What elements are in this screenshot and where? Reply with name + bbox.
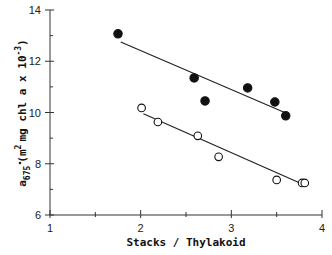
- data-point-filled: [114, 30, 122, 38]
- data-point-open: [154, 118, 162, 126]
- data-point-filled: [271, 98, 279, 106]
- data-point-open: [273, 176, 281, 184]
- data-points: [114, 30, 309, 187]
- x-tick-label: 3: [228, 222, 234, 234]
- data-point-filled: [282, 112, 290, 120]
- data-point-filled: [201, 97, 209, 105]
- data-point-filled: [243, 84, 251, 92]
- fit-line-open: [143, 114, 303, 185]
- data-point-filled: [190, 74, 198, 82]
- data-point-open: [301, 179, 309, 187]
- y-tick-label: 10: [29, 107, 41, 119]
- y-tick-label: 6: [35, 209, 41, 221]
- asterisk-mark: [19, 162, 22, 165]
- axes: 68101214 1234: [29, 4, 325, 234]
- data-point-open: [138, 104, 146, 112]
- fit-lines: [121, 42, 304, 185]
- y-tick-label: 8: [35, 158, 41, 170]
- data-point-open: [194, 132, 202, 140]
- y-tick-label: 12: [29, 55, 41, 67]
- y-tick-label: 14: [29, 4, 41, 16]
- x-tick-label: 4: [319, 222, 325, 234]
- x-tick-label: 1: [47, 222, 53, 234]
- x-axis-title: Stacks / Thylakoid: [126, 236, 245, 249]
- scatter-chart: 68101214 1234 Stacks / Thylakoid a675(m2…: [0, 0, 332, 255]
- x-tick-label: 2: [138, 222, 144, 234]
- data-point-open: [215, 153, 223, 161]
